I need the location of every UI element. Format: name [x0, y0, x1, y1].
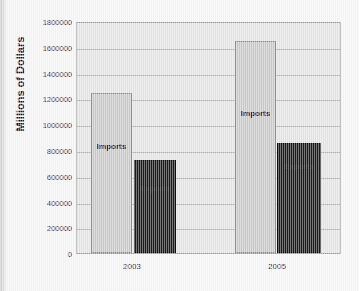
y-tick-label: 1400000 [22, 69, 72, 78]
bar-chart-figure: Millions of Dollars 1800000 1600000 1400… [0, 0, 359, 291]
y-tick-label: 600000 [22, 172, 72, 181]
y-tick-label: 0 [22, 250, 72, 259]
bar-label-2005-imports: Imports [236, 109, 275, 118]
bar-2003-exports[interactable]: Exports [134, 160, 176, 253]
x-axis-tick-labels: 2003 2005 [76, 262, 341, 278]
plot-area: Imports Exports Imports Exports [76, 22, 341, 254]
y-tick-label: 1200000 [22, 95, 72, 104]
x-tick-label-2005: 2005 [268, 262, 286, 271]
x-tick-label-2003: 2003 [123, 262, 141, 271]
bar-2003-imports[interactable]: Imports [91, 93, 132, 253]
y-tick-label: 1600000 [22, 43, 72, 52]
y-tick-label: 200000 [22, 224, 72, 233]
gridline [77, 49, 340, 50]
bar-label-2003-imports: Imports [92, 142, 131, 151]
bar-label-2005-exports: Exports [278, 162, 320, 171]
bar-label-2003-exports: Exports [135, 184, 175, 193]
y-axis-tick-labels: 1800000 1600000 1400000 1200000 1000000 … [22, 22, 72, 254]
y-tick-label: 1000000 [22, 121, 72, 130]
scan-edge-shadow [0, 0, 6, 291]
bar-2005-exports[interactable]: Exports [277, 143, 321, 253]
y-tick-label: 400000 [22, 198, 72, 207]
bar-2005-imports[interactable]: Imports [235, 41, 276, 253]
y-tick-label: 1800000 [22, 18, 72, 27]
y-tick-label: 800000 [22, 146, 72, 155]
gridline [77, 75, 340, 76]
